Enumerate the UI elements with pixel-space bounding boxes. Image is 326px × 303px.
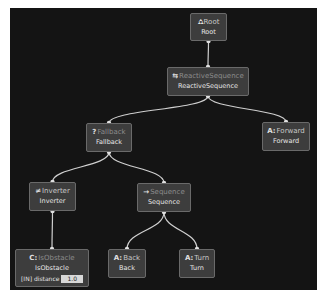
node-fallback[interactable]: ?Fallback Fallback xyxy=(86,123,132,152)
reactive-sequence-icon: ⇆ xyxy=(172,72,178,80)
node-turn[interactable]: A:Turn Turn xyxy=(179,249,215,278)
node-isobstacle[interactable]: C:IsObstacle IsObstacle [IN] distance 1.… xyxy=(15,249,89,287)
node-name: Sequence xyxy=(138,197,190,207)
input-port-distance: [IN] distance 1.0 xyxy=(16,274,88,284)
fallback-icon: ? xyxy=(92,128,96,136)
node-back[interactable]: A:Back Back xyxy=(108,249,146,278)
node-type-label: Sequence xyxy=(150,188,185,196)
node-inverter[interactable]: ≠Inverter Inverter xyxy=(29,182,76,211)
action-icon: A: xyxy=(185,254,193,262)
sequence-icon: → xyxy=(143,188,149,196)
node-name: Inverter xyxy=(30,196,75,206)
node-name: IsObstacle xyxy=(16,263,88,273)
node-type-label: IsObstacle xyxy=(38,254,74,262)
root-icon: ⛼ xyxy=(198,18,203,26)
action-icon: A: xyxy=(267,127,275,135)
node-root[interactable]: ⛼Root Root xyxy=(190,13,227,41)
node-type-label: Turn xyxy=(194,254,209,262)
node-type-label: Inverter xyxy=(42,187,70,195)
node-type-label: Back xyxy=(123,254,140,262)
port-direction: [IN] xyxy=(21,274,32,284)
node-name: Fallback xyxy=(87,137,131,147)
node-name: Turn xyxy=(180,263,214,273)
action-icon: A: xyxy=(114,254,122,262)
port-label: distance xyxy=(34,274,59,284)
node-name: ReactiveSequence xyxy=(168,81,248,91)
node-sequence[interactable]: →Sequence Sequence xyxy=(137,183,191,212)
distance-value-field[interactable]: 1.0 xyxy=(61,275,83,283)
node-name: Root xyxy=(191,27,226,37)
condition-icon: C: xyxy=(29,254,37,262)
node-type-label: ReactiveSequence xyxy=(179,72,244,80)
node-type-label: Root xyxy=(204,18,220,26)
node-forward[interactable]: A:Forward Forward xyxy=(262,122,310,151)
node-type-label: Forward xyxy=(277,127,305,135)
inverter-icon: ≠ xyxy=(35,187,41,195)
node-reactive-sequence[interactable]: ⇆ReactiveSequence ReactiveSequence xyxy=(167,67,249,96)
node-name: Back xyxy=(109,263,145,273)
node-name: Forward xyxy=(263,136,309,146)
node-type-label: Fallback xyxy=(97,128,125,136)
